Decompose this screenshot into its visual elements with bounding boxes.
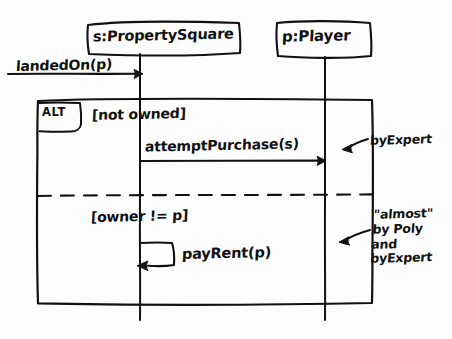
lifeline-box-player-label: p:Player (282, 28, 351, 44)
message-label-pay-rent: payRent(p) (182, 245, 272, 261)
lifeline-box-property-square-label: s:PropertySquare (93, 27, 235, 44)
message-pay-rent-self-call[interactable] (137, 243, 174, 271)
message-label-attempt-purchase: attemptPurchase(s) (145, 136, 300, 153)
note-pointer-by-expert (342, 139, 368, 153)
found-message-label: landedOn(p) (16, 57, 113, 73)
alt-divider-dashed (38, 194, 372, 196)
sequence-diagram-canvas: s:PropertySquare p:Player landedOn(p) AL… (0, 0, 452, 339)
note-pointer-almost-poly-expert (339, 230, 370, 245)
guard-condition-not-owned: [not owned] (92, 106, 187, 122)
annotation-by-expert: byExpert (369, 133, 432, 147)
guard-condition-owner-not-p: [owner != p] (91, 208, 189, 224)
annotation-almost-by-poly-and-by-expert: "almost" by Poly and byExpert (370, 206, 436, 267)
diagram-strokes (0, 0, 452, 339)
alt-fragment-frame (37, 99, 373, 305)
message-attempt-purchase[interactable] (140, 156, 326, 165)
alt-operator-label: ALT (42, 107, 66, 119)
